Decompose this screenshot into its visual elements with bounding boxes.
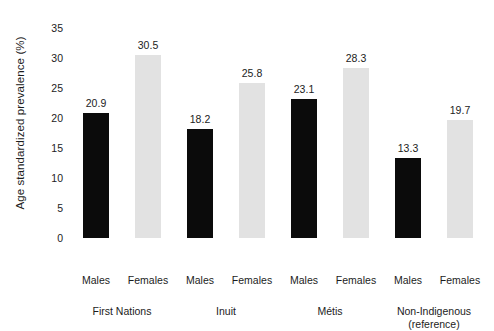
- bar-inuit-females: 25.8: [239, 83, 265, 238]
- bar-value-label: 19.7: [450, 104, 470, 116]
- group-label: Métis: [317, 305, 342, 318]
- plot-area: 05101520253035 20.930.518.225.823.128.31…: [72, 28, 488, 238]
- bar-value-label: 30.5: [138, 39, 158, 51]
- bar-value-label: 28.3: [346, 52, 366, 64]
- bar-value-label: 20.9: [86, 97, 106, 109]
- x-tick-label-males: Males: [290, 274, 318, 286]
- bar-first-nations-males: 20.9: [83, 113, 109, 238]
- bar-value-label: 18.2: [190, 113, 210, 125]
- group-label-line2: (reference): [397, 318, 471, 331]
- y-tick-label: 5: [57, 203, 63, 214]
- bar-value-label: 25.8: [242, 67, 262, 79]
- y-tick-label: 0: [57, 233, 63, 244]
- x-tick-label-males: Males: [394, 274, 422, 286]
- y-tick-label: 30: [51, 53, 63, 64]
- bar-value-label: 13.3: [398, 142, 418, 154]
- y-tick-label: 25: [51, 83, 63, 94]
- group-label: Non-Indigenous(reference): [397, 305, 471, 331]
- x-tick-label-females: Females: [232, 274, 272, 286]
- y-tick-label: 15: [51, 143, 63, 154]
- bar-first-nations-females: 30.5: [135, 55, 161, 238]
- x-tick-label-females: Females: [128, 274, 168, 286]
- group-label: Inuit: [216, 305, 236, 318]
- bar-non-indigenous-females: 19.7: [447, 120, 473, 238]
- y-tick-label: 35: [51, 23, 63, 34]
- bar-inuit-males: 18.2: [187, 129, 213, 238]
- group-label-line1: Inuit: [216, 305, 236, 317]
- y-tick-label: 20: [51, 113, 63, 124]
- bar-m-tis-males: 23.1: [291, 99, 317, 238]
- y-tick-label: 10: [51, 173, 63, 184]
- x-tick-label-females: Females: [336, 274, 376, 286]
- y-axis-title: Age standardized prevalence (%): [12, 0, 28, 248]
- bar-value-label: 23.1: [294, 83, 314, 95]
- group-label: First Nations: [93, 305, 152, 318]
- group-label-line1: Métis: [317, 305, 342, 317]
- x-tick-label-males: Males: [186, 274, 214, 286]
- bar-non-indigenous-males: 13.3: [395, 158, 421, 238]
- x-tick-label-females: Females: [440, 274, 480, 286]
- bar-m-tis-females: 28.3: [343, 68, 369, 238]
- group-label-line1: First Nations: [93, 305, 152, 317]
- group-label-line1: Non-Indigenous: [397, 305, 471, 317]
- x-tick-label-males: Males: [82, 274, 110, 286]
